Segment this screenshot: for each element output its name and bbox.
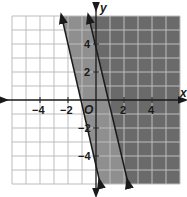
- y-tick-label: 4: [84, 38, 91, 50]
- x-tick-label: 4: [148, 104, 155, 116]
- origin-label: O: [84, 103, 94, 117]
- y-tick-label: 2: [84, 66, 90, 78]
- x-tick-label: 2: [120, 104, 126, 116]
- x-tick-label: −2: [60, 104, 73, 116]
- x-axis-label: x: [179, 86, 187, 100]
- y-tick-label: −2: [78, 122, 91, 134]
- coordinate-graph: −4 −2 2 4 4 2 −2 −4 O y x: [0, 0, 187, 197]
- x-tick-label: −4: [32, 104, 45, 116]
- y-axis-label: y: [99, 1, 108, 15]
- y-tick-label: −4: [78, 150, 91, 162]
